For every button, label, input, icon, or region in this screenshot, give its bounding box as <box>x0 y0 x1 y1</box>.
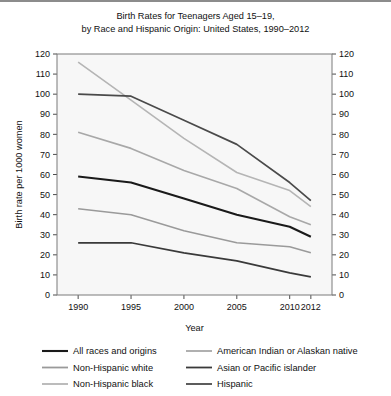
line-chart-plot: 0010102020303040405050606070708080909010… <box>0 2 391 396</box>
y-axis-title: Birth rate per 1000 women <box>14 120 24 228</box>
legend-item-hispanic[interactable]: Hispanic <box>186 379 253 389</box>
legend-item-american-indian-or-alaskan-native[interactable]: American Indian or Alaskan native <box>186 346 358 356</box>
y-tick-label-left: 100 <box>35 89 50 99</box>
y-tick-label-left: 50 <box>40 190 50 200</box>
y-tick-label-right: 0 <box>339 290 344 300</box>
x-axis-title: Year <box>185 323 204 333</box>
y-tick-label-right: 120 <box>339 49 354 59</box>
y-tick-label-right: 50 <box>339 190 349 200</box>
y-tick-label-right: 60 <box>339 170 349 180</box>
y-tick-label-right: 70 <box>339 150 349 160</box>
x-tick-label: 2005 <box>227 302 247 312</box>
x-tick-label: 2012 <box>301 302 321 312</box>
legend-item-all-races-and-origins[interactable]: All races and origins <box>42 346 157 356</box>
legend-item-non-hispanic-black[interactable]: Non-Hispanic black <box>42 379 153 389</box>
y-tick-label-left: 120 <box>35 49 50 59</box>
y-tick-label-left: 40 <box>40 210 50 220</box>
y-tick-label-right: 10 <box>339 270 349 280</box>
x-tick-label: 1990 <box>68 302 88 312</box>
y-tick-label-left: 20 <box>40 250 50 260</box>
y-tick-label-right: 90 <box>339 109 349 119</box>
y-tick-label-left: 80 <box>40 130 50 140</box>
y-tick-label-left: 0 <box>45 290 50 300</box>
y-tick-label-right: 110 <box>339 69 353 79</box>
y-tick-label-left: 30 <box>40 230 50 240</box>
y-tick-label-left: 10 <box>40 270 50 280</box>
x-tick-label: 2000 <box>174 302 194 312</box>
legend-item-non-hispanic-white[interactable]: Non-Hispanic white <box>42 363 153 373</box>
x-tick-label: 2010 <box>280 302 300 312</box>
y-tick-label-left: 110 <box>36 69 50 79</box>
y-tick-label-right: 30 <box>339 230 349 240</box>
y-tick-label-right: 40 <box>339 210 349 220</box>
legend-label-all-races-and-origins: All races and origins <box>73 346 157 356</box>
legend-label-non-hispanic-black: Non-Hispanic black <box>73 379 153 389</box>
y-tick-label-right: 20 <box>339 250 349 260</box>
chart-figure: Birth Rates for Teenagers Aged 15–19, by… <box>0 0 391 396</box>
legend-item-asian-or-pacific-islander[interactable]: Asian or Pacific islander <box>186 363 316 373</box>
legend-label-hispanic: Hispanic <box>217 379 253 389</box>
y-tick-label-left: 90 <box>40 109 50 119</box>
legend-label-american-indian-or-alaskan-native: American Indian or Alaskan native <box>217 346 358 356</box>
y-tick-label-right: 100 <box>339 89 354 99</box>
x-tick-label: 1995 <box>121 302 141 312</box>
y-tick-label-left: 60 <box>40 170 50 180</box>
y-tick-label-right: 80 <box>339 130 349 140</box>
y-tick-label-left: 70 <box>40 150 50 160</box>
legend-label-asian-or-pacific-islander: Asian or Pacific islander <box>217 363 316 373</box>
legend-label-non-hispanic-white: Non-Hispanic white <box>73 363 153 373</box>
